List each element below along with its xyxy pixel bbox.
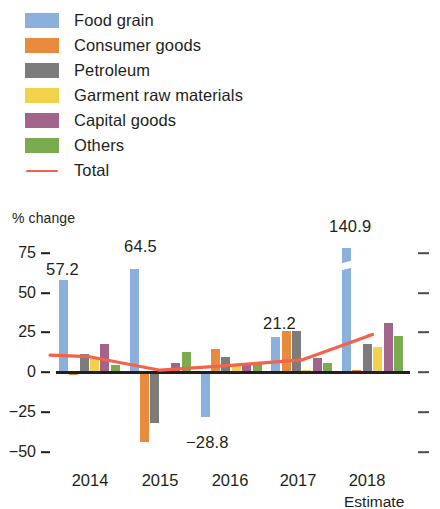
legend-item-others: Others [25,133,285,158]
total-trend-line [56,240,410,470]
legend-item-total: Total [25,158,285,183]
x-axis-note-estimate: Estimate [344,493,404,509]
legend-swatch-others [25,138,59,153]
y-axis-title: % change [12,210,75,226]
legend-swatch-consumer-goods [25,38,59,53]
data-label-2015: 64.5 [124,237,157,256]
y-tick-label-neg50: −50 [9,443,36,461]
y-tick-mark-neg50 [41,451,50,453]
legend-swatch-garment-raw-materials [25,88,59,103]
legend-label-capital-goods: Capital goods [74,112,176,129]
plot-area: 75 50 25 0 −25 −50 [0,240,440,470]
legend-item-petroleum: Petroleum [25,58,285,83]
legend-label-food-grain: Food grain [74,12,154,29]
y-tick-label-75: 75 [18,244,36,262]
y-axis: 75 50 25 0 −25 −50 [0,240,50,470]
y-tick-mark-50 [41,292,50,294]
y-tick-label-neg25: −25 [9,403,36,421]
x-label-2015: 2015 [125,471,195,490]
data-label-2016: −28.8 [186,433,229,452]
data-label-2018: 140.9 [329,217,371,236]
legend-item-food-grain: Food grain [25,8,285,33]
y-tick-mark-25 [41,331,50,333]
legend-label-garment-raw-materials: Garment raw materials [74,87,243,104]
chart-figure: Food grain Consumer goods Petroleum Garm… [0,0,440,509]
chart-legend: Food grain Consumer goods Petroleum Garm… [25,8,285,183]
y-tick-label-25: 25 [18,323,36,341]
data-label-2014: 57.2 [46,260,79,279]
y-axis-right-ticks [415,240,429,470]
legend-item-consumer-goods: Consumer goods [25,33,285,58]
x-label-2014: 2014 [55,471,125,490]
x-label-2018: 2018 [332,471,402,490]
legend-label-consumer-goods: Consumer goods [74,37,201,54]
legend-item-capital-goods: Capital goods [25,108,285,133]
legend-item-garment-raw-materials: Garment raw materials [25,83,285,108]
y-tick-mark-0 [41,371,50,373]
legend-swatch-food-grain [25,13,59,28]
y-tick-mark-neg25 [41,411,50,413]
data-label-2017: 21.2 [263,314,296,333]
x-label-2016: 2016 [195,471,265,490]
y-tick-label-0: 0 [27,363,36,381]
y-tick-mark-75 [41,252,50,254]
legend-swatch-capital-goods [25,113,59,128]
legend-swatch-petroleum [25,63,59,78]
x-label-2017: 2017 [263,471,333,490]
x-axis: 2014 2015 2016 2017 2018 Estimate [0,471,440,509]
y-tick-label-50: 50 [18,284,36,302]
legend-label-others: Others [74,137,124,154]
legend-line-total [25,163,59,178]
legend-label-petroleum: Petroleum [74,62,150,79]
legend-label-total: Total [74,162,109,179]
